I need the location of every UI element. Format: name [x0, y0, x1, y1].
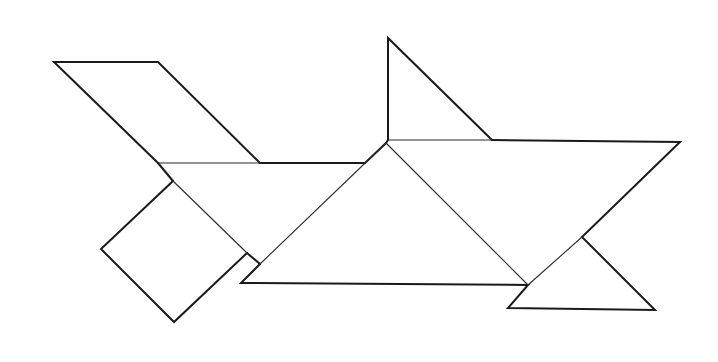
square-outline	[101, 181, 247, 322]
bottom-outline	[241, 140, 680, 310]
outline	[54, 38, 680, 322]
inner-lines	[158, 140, 582, 285]
tangram-figure	[0, 0, 718, 362]
parallelogram-outline	[54, 62, 365, 163]
tangram-drawing	[0, 0, 718, 362]
